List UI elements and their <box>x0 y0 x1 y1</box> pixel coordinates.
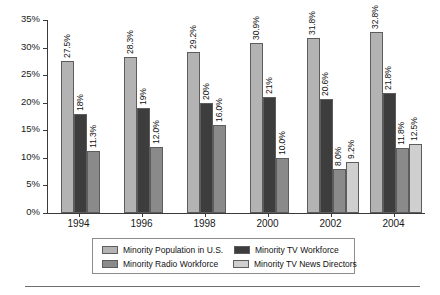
y-axis-tick-mark <box>43 75 47 76</box>
bar-value-label: 28.3% <box>125 30 135 54</box>
bar: 11.3% <box>87 151 100 213</box>
x-axis-label: 2002 <box>299 218 362 229</box>
bar: 18% <box>74 114 87 213</box>
legend-item-label: Minority Population in U.S. <box>123 245 223 255</box>
legend-item-1: Minority TV Workforce <box>234 245 354 255</box>
y-axis-tick-mark <box>43 48 47 49</box>
bar-value-label: 21.8% <box>383 66 393 90</box>
bar-value-label: 32.8% <box>370 6 380 30</box>
legend-item-label: Minority Radio Workforce <box>123 259 218 269</box>
bar: 21% <box>263 97 276 213</box>
chart-figure: 0%5%10%15%20%25%30%35% 27.5%18%11.3%28.3… <box>0 0 440 295</box>
bar: 11.8% <box>396 148 409 213</box>
y-axis-tick: 25% <box>47 75 48 76</box>
y-axis-tick-label: 0% <box>26 206 40 217</box>
legend-swatch-icon <box>102 260 118 268</box>
bar-value-label: 21% <box>264 77 274 94</box>
legend-swatch-icon <box>233 260 249 268</box>
bar-value-label: 10.0% <box>277 131 287 155</box>
legend-item-2: Minority Radio Workforce <box>93 259 233 269</box>
y-axis-tick: 30% <box>47 48 48 49</box>
y-axis-tick-label: 15% <box>21 123 40 134</box>
bar-group: 28.3%19%12.0% <box>124 20 163 213</box>
y-axis-tick-mark <box>43 103 47 104</box>
bar-value-label: 27.5% <box>62 35 72 59</box>
bar-value-label: 12.0% <box>151 120 161 144</box>
y-axis-tick-mark <box>43 158 47 159</box>
bar: 27.5% <box>61 61 74 213</box>
bar-group: 32.8%21.8%11.8%12.5% <box>370 20 422 213</box>
x-axis-label: 1994 <box>47 218 110 229</box>
y-axis-tick-label: 25% <box>21 68 40 79</box>
legend-item-0: Minority Population in U.S. <box>93 245 234 255</box>
bar: 20% <box>200 103 213 213</box>
legend-swatch-icon <box>234 246 250 254</box>
bar: 8.0% <box>333 169 346 213</box>
y-axis-tick-mark <box>43 213 47 214</box>
bar-group: 27.5%18%11.3% <box>61 20 100 213</box>
x-axis-tick-mark <box>394 213 395 217</box>
x-axis-tick-mark <box>205 213 206 217</box>
bar-value-label: 30.9% <box>251 16 261 40</box>
legend-item-3: Minority TV News Directors <box>233 259 354 269</box>
x-axis-tick-mark <box>268 213 269 217</box>
x-axis-line <box>47 213 425 214</box>
bar: 9.2% <box>346 162 359 213</box>
bar-value-label: 12.5% <box>409 117 419 141</box>
y-axis-tick: 10% <box>47 158 48 159</box>
bar-value-label: 18% <box>75 94 85 111</box>
legend-item-label: Minority TV News Directors <box>254 259 357 269</box>
legend-row: Minority Population in U.S. Minority TV … <box>93 243 354 257</box>
bar: 10.0% <box>276 158 289 213</box>
x-axis-label: 1996 <box>110 218 173 229</box>
bar-value-label: 29.2% <box>188 25 198 49</box>
bar-value-label: 8.0% <box>333 147 343 166</box>
bar: 16.0% <box>213 125 226 213</box>
bar: 12.5% <box>409 144 422 213</box>
bar-value-label: 16.0% <box>214 98 224 122</box>
y-axis-tick-label: 5% <box>26 178 40 189</box>
bar-value-label: 9.2% <box>346 140 356 159</box>
bar-value-label: 20% <box>201 83 211 100</box>
bar-group: 29.2%20%16.0% <box>187 20 226 213</box>
y-axis-tick-label: 20% <box>21 96 40 107</box>
bar-value-label: 11.8% <box>396 122 406 145</box>
y-axis-tick-mark <box>43 130 47 131</box>
y-axis-line <box>47 20 48 213</box>
bar: 28.3% <box>124 57 137 213</box>
x-axis-label: 2000 <box>236 218 299 229</box>
bar-value-label: 19% <box>138 89 148 106</box>
bar: 21.8% <box>383 93 396 213</box>
y-axis-tick-label: 35% <box>21 13 40 24</box>
bar: 32.8% <box>370 32 383 213</box>
x-axis-tick-mark <box>142 213 143 217</box>
legend-swatch-icon <box>102 246 118 254</box>
y-axis-tick: 0% <box>47 213 48 214</box>
y-axis-tick-mark <box>43 185 47 186</box>
x-axis-label: 2004 <box>362 218 425 229</box>
bar-value-label: 11.3% <box>88 125 98 148</box>
y-axis-tick: 35% <box>47 20 48 21</box>
footer-divider <box>25 286 420 287</box>
y-axis-tick: 5% <box>47 185 48 186</box>
bar: 31.8% <box>307 38 320 213</box>
bar-group: 30.9%21%10.0% <box>250 20 289 213</box>
bar: 29.2% <box>187 52 200 213</box>
bar: 20.6% <box>320 99 333 213</box>
bar-group: 31.8%20.6%8.0%9.2% <box>307 20 359 213</box>
bar: 30.9% <box>250 43 263 213</box>
bar-value-label: 31.8% <box>307 11 317 35</box>
x-axis-label: 1998 <box>173 218 236 229</box>
y-axis-tick-label: 10% <box>21 151 40 162</box>
y-axis-tick-label: 30% <box>21 41 40 52</box>
bar-value-label: 20.6% <box>320 73 330 97</box>
chart-legend: Minority Population in U.S. Minority TV … <box>92 238 355 274</box>
y-axis-tick: 20% <box>47 103 48 104</box>
legend-item-label: Minority TV Workforce <box>255 245 339 255</box>
legend-row: Minority Radio Workforce Minority TV New… <box>93 257 354 271</box>
bar: 12.0% <box>150 147 163 213</box>
bar: 19% <box>137 108 150 213</box>
x-axis-tick-mark <box>331 213 332 217</box>
plot-area: 0%5%10%15%20%25%30%35% 27.5%18%11.3%28.3… <box>47 20 425 213</box>
x-axis-tick-mark <box>79 213 80 217</box>
